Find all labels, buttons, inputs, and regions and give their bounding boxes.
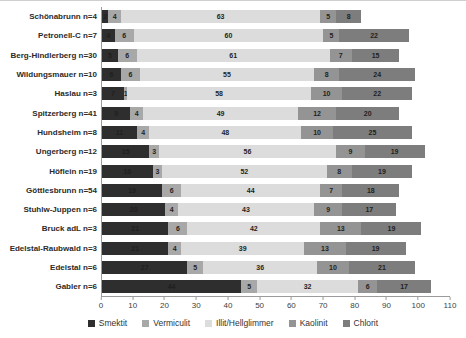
tick-label: 20 [160, 301, 169, 310]
tick-mark [132, 297, 133, 300]
segment-chlorit: 22 [342, 87, 412, 100]
category-axis-line [101, 7, 102, 296]
legend-label: Kaolinit [300, 318, 328, 328]
tick-label: 70 [319, 301, 328, 310]
segment-illit-hellglimmer: 36 [203, 261, 317, 274]
segment-value: 42 [250, 225, 258, 232]
segment-value: 5 [326, 13, 330, 20]
legend-swatch-smektit [88, 320, 95, 327]
bar-row: Gabler n=644532617 [0, 277, 466, 296]
segment-chlorit: 19 [346, 242, 406, 255]
bar-track: 4660522 [102, 29, 450, 42]
segment-value: 7 [339, 52, 343, 59]
segment-value: 19 [388, 225, 396, 232]
segment-value: 15 [372, 52, 380, 59]
segment-chlorit: 22 [339, 29, 409, 42]
segment-value: 49 [217, 110, 225, 117]
bar-row: Bruck adL n=3216421319 [0, 219, 466, 238]
tick-mark [227, 297, 228, 300]
segment-value: 48 [221, 129, 229, 136]
bar-track: 6655824 [102, 68, 450, 81]
segment-kaolinit: 6 [358, 280, 377, 293]
category-label: Spitzerberg n=41 [0, 109, 102, 118]
segment-vermiculit: 6 [115, 29, 134, 42]
plot-rows: Schönabrunn n=4246358Petronell-C n=74660… [0, 7, 466, 296]
segment-chlorit: 17 [377, 280, 431, 293]
segment-value: 9 [114, 110, 118, 117]
legend-swatch-kaolinit [289, 320, 296, 327]
bar-row: Göttlesbrunn n=5419644718 [0, 181, 466, 200]
segment-value: 10 [323, 90, 331, 97]
segment-value: 21 [131, 225, 139, 232]
segment-smektit: 4 [102, 29, 115, 42]
segment-value: 6 [122, 32, 126, 39]
bar-row: Ungerberg n=1215356919 [0, 142, 466, 161]
tick-mark [100, 297, 101, 300]
tick-mark [164, 297, 165, 300]
segment-kaolinit: 5 [320, 10, 336, 23]
segment-chlorit: 19 [365, 145, 425, 158]
category-label: Bruck adL n=3 [0, 224, 102, 233]
bar-row: Spitzerberg n=4194491220 [0, 103, 466, 122]
segment-smektit: 9 [102, 107, 130, 120]
segment-value: 21 [131, 245, 139, 252]
segment-kaolinit: 7 [320, 184, 342, 197]
segment-value: 61 [229, 52, 237, 59]
bar-row: Edelstal n=6275361021 [0, 258, 466, 277]
tick-label: 100 [412, 301, 425, 310]
segment-value: 20 [130, 206, 138, 213]
segment-chlorit: 15 [352, 49, 399, 62]
segment-value: 32 [304, 283, 312, 290]
segment-value: 4 [170, 206, 174, 213]
segment-value: 4 [106, 32, 110, 39]
segment-value: 6 [110, 71, 114, 78]
bar-row: Wildungsmauer n=106655824 [0, 65, 466, 84]
segment-value: 13 [337, 225, 345, 232]
segment-vermiculit: 6 [168, 222, 187, 235]
segment-value: 63 [217, 13, 225, 20]
segment-vermiculit: 5 [187, 261, 203, 274]
tick-mark [259, 297, 260, 300]
axis-tick: 0 [99, 297, 103, 310]
segment-value: 55 [223, 71, 231, 78]
segment-value: 5 [247, 283, 251, 290]
category-label: Gabler n=6 [0, 282, 102, 291]
segment-vermiculit: 4 [108, 10, 121, 23]
bar-row: Berg-Hindlerberg n=305661715 [0, 46, 466, 65]
category-label: Edelstal-Raubwald n=3 [0, 244, 102, 253]
segment-smektit: 6 [102, 68, 121, 81]
segment-value: 19 [391, 148, 399, 155]
bar-row: Edelstal-Raubwald n=3214391319 [0, 239, 466, 258]
category-label: Haslau n=3 [0, 89, 102, 98]
segment-smektit: 11 [102, 126, 137, 139]
segment-vermiculit: 4 [168, 242, 181, 255]
segment-kaolinit: 10 [317, 261, 349, 274]
tick-label: 50 [255, 301, 264, 310]
segment-value: 10 [329, 264, 337, 271]
legend-item-smektit: Smektit [88, 318, 127, 328]
segment-illit-hellglimmer: 55 [140, 68, 314, 81]
segment-value: 7 [111, 90, 115, 97]
category-label: Berg-Hindlerberg n=30 [0, 51, 102, 60]
value-axis: 0102030405060708090100110 [101, 296, 450, 313]
axis-tick: 20 [160, 297, 169, 310]
segment-illit-hellglimmer: 44 [181, 184, 320, 197]
axis-tick: 70 [319, 297, 328, 310]
tick-mark [354, 297, 355, 300]
segment-illit-hellglimmer: 63 [121, 10, 320, 23]
legend-label: Smektit [99, 318, 127, 328]
bar-track: 5661715 [102, 49, 450, 62]
segment-kaolinit: 8 [327, 165, 352, 178]
tick-mark [196, 297, 197, 300]
segment-smektit: 21 [102, 222, 168, 235]
legend-swatch-vermiculit [142, 320, 149, 327]
segment-chlorit: 21 [349, 261, 415, 274]
segment-value: 44 [168, 283, 176, 290]
tick-label: 110 [444, 301, 457, 310]
segment-chlorit: 20 [336, 107, 399, 120]
segment-value: 8 [347, 13, 351, 20]
segment-value: 9 [348, 148, 352, 155]
axis-tick: 110 [444, 297, 457, 310]
segment-chlorit: 24 [339, 68, 415, 81]
segment-kaolinit: 13 [320, 222, 361, 235]
